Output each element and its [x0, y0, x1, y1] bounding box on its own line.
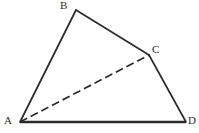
vertex-label-c: C — [152, 44, 159, 55]
edge-a-c-diagonal-dashed — [20, 55, 149, 122]
vertex-label-a: A — [4, 115, 12, 126]
edge-a-b — [20, 10, 76, 122]
edge-c-d — [149, 55, 186, 122]
geometry-figure: A B C D — [0, 0, 199, 133]
vertex-label-d: D — [188, 115, 196, 126]
edge-b-c — [76, 10, 149, 55]
vertex-label-b: B — [60, 0, 67, 11]
figure-canvas — [0, 0, 199, 133]
